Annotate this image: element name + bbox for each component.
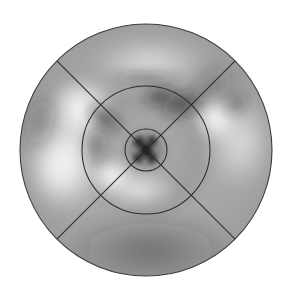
field-svg — [0, 0, 290, 300]
polar-field-plot — [0, 0, 290, 300]
dark-band-north-outer — [102, 68, 190, 88]
